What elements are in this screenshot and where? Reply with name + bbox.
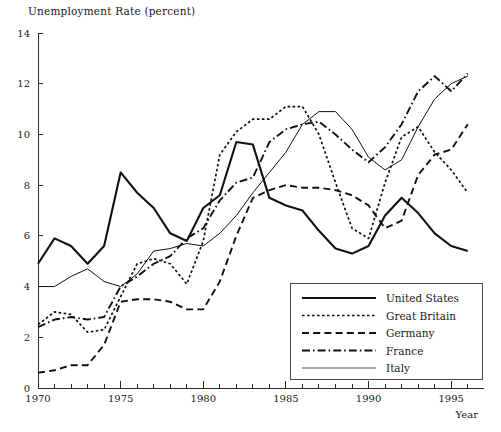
plot-area: 02468101214 197019751980198519901995 Uni… (0, 0, 501, 432)
x-tick-label: 1980 (191, 393, 216, 404)
y-tick-label: 2 (24, 332, 30, 343)
series-line-united-states (38, 142, 468, 264)
x-tick-label: 1995 (438, 393, 463, 404)
x-axis: 197019751980198519901995 (25, 381, 484, 404)
y-tick-label: 10 (17, 129, 30, 140)
legend-label-france: France (386, 345, 423, 357)
y-tick-label: 14 (17, 28, 30, 39)
y-tick-label: 12 (17, 78, 30, 89)
legend-label-united-states: United States (386, 292, 459, 304)
y-axis: 02468101214 (17, 28, 43, 394)
unemployment-rate-chart: Unemployment Rate (percent) 02468101214 … (0, 0, 501, 432)
x-tick-label: 1975 (108, 393, 133, 404)
series-line-italy (38, 76, 468, 286)
legend-label-italy: Italy (386, 362, 410, 374)
x-tick-label: 1990 (356, 393, 381, 404)
x-tick-label: 1970 (25, 393, 50, 404)
chart-legend: United StatesGreat BritainGermanyFranceI… (290, 283, 482, 379)
y-tick-label: 6 (24, 230, 30, 241)
legend-label-great-britain: Great Britain (386, 310, 456, 322)
y-tick-label: 8 (24, 180, 30, 191)
x-axis-title: Year (455, 409, 479, 420)
y-tick-label: 0 (24, 383, 30, 394)
legend-label-germany: Germany (386, 327, 435, 339)
y-tick-label: 4 (24, 281, 30, 292)
x-tick-label: 1985 (273, 393, 298, 404)
